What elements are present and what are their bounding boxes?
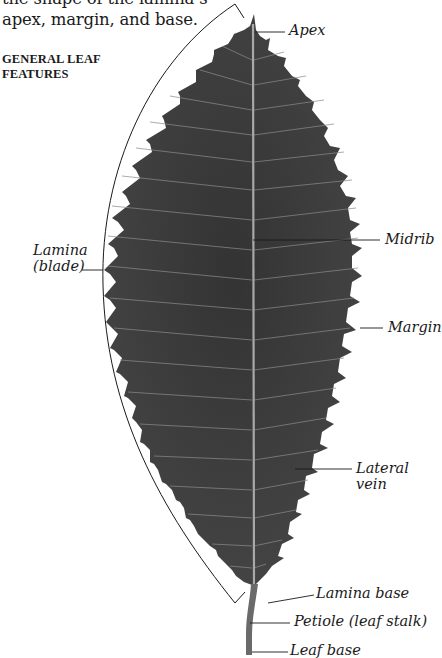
label-leaf-base: Leaf base bbox=[290, 642, 361, 658]
label-lamina-line-1: Lamina bbox=[33, 242, 79, 258]
label-lamina: Lamina (blade) bbox=[33, 242, 79, 274]
petiole bbox=[246, 584, 258, 655]
midrib bbox=[253, 24, 254, 590]
label-lateral-vein: Lateral vein bbox=[356, 460, 409, 492]
label-midrib: Midrib bbox=[385, 231, 435, 247]
label-lateral-vein-line-2: vein bbox=[356, 476, 409, 492]
label-lateral-vein-line-1: Lateral bbox=[356, 460, 409, 476]
label-petiole: Petiole (leaf stalk) bbox=[294, 613, 427, 629]
lamina-base-leader bbox=[268, 595, 314, 603]
label-margin: Margin bbox=[388, 319, 442, 335]
leaf-blade bbox=[104, 14, 362, 585]
label-lamina-line-2: (blade) bbox=[33, 258, 79, 274]
label-lamina-base: Lamina base bbox=[316, 585, 409, 601]
label-apex: Apex bbox=[289, 22, 326, 38]
